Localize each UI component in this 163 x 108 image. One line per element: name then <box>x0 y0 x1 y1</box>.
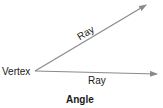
vertex-label: Vertex <box>2 66 30 77</box>
lower-ray-label: Ray <box>88 75 106 86</box>
angle-diagram: Vertex Ray Ray Angle <box>0 0 163 108</box>
diagram-title: Angle <box>66 94 94 105</box>
lower-ray-line <box>35 71 157 74</box>
upper-ray-line <box>35 5 146 71</box>
upper-ray-label: Ray <box>75 24 96 43</box>
